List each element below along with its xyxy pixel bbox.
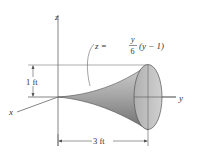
x-axis-label: x [8, 107, 13, 117]
equation-factor: (y − 1) [139, 41, 164, 51]
z-axis-label: z [54, 12, 59, 22]
equation-denominator: 6 [131, 47, 135, 56]
horn-diagram: z y x z = y 6 (y − 1) 1 ft 3 ft [0, 0, 198, 158]
height-dimension-label: 1 ft [26, 77, 38, 87]
equation-lhs: z = [94, 41, 107, 51]
length-dimension-label: 3 ft [93, 136, 105, 146]
surface-equation: z = y 6 (y − 1) [94, 35, 164, 56]
y-axis-label: y [178, 93, 183, 103]
equation-numerator: y [130, 35, 135, 44]
x-axis [17, 97, 58, 112]
